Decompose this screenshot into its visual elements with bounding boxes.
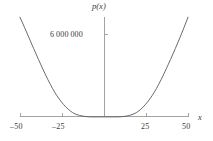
x-tick-label-50: 50 xyxy=(182,123,190,131)
x-tick-label-minus-50: –50 xyxy=(10,123,23,131)
polynomial-curve xyxy=(20,17,188,117)
y-axis-label: p(x) xyxy=(92,2,106,11)
y-tick-label-6000000: 6 000 000 xyxy=(50,31,83,39)
x-axis-label: x xyxy=(198,113,202,122)
polynomial-plot-figure: p(x) x 6 000 000 –50 –25 25 50 xyxy=(0,0,213,141)
plot-canvas xyxy=(0,0,213,141)
x-tick-label-minus-25: –25 xyxy=(52,123,65,131)
x-tick-label-25: 25 xyxy=(141,123,149,131)
